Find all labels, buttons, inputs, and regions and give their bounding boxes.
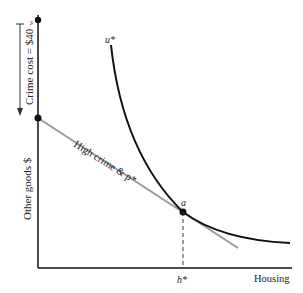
x-tick-h-star: h* — [177, 274, 187, 285]
intercept-point — [35, 115, 42, 122]
top-point-label: W — [29, 20, 34, 25]
indifference-curve-label: u* — [105, 34, 115, 45]
budget-line-label: High crime & p* — [72, 138, 138, 185]
indifference-curve — [111, 45, 290, 243]
top-point — [35, 17, 41, 23]
y-axis-label: Other goods $ — [21, 157, 33, 220]
budget-line — [38, 118, 238, 248]
crime-cost-label: Crime cost = $40 — [23, 28, 35, 105]
arrow-head-icon — [17, 108, 23, 116]
tangency-point-label: a — [181, 197, 186, 208]
x-axis-label: Housing — [254, 273, 290, 284]
chart: Crime cost = $40 W Other goods $ u* High… — [0, 0, 303, 293]
